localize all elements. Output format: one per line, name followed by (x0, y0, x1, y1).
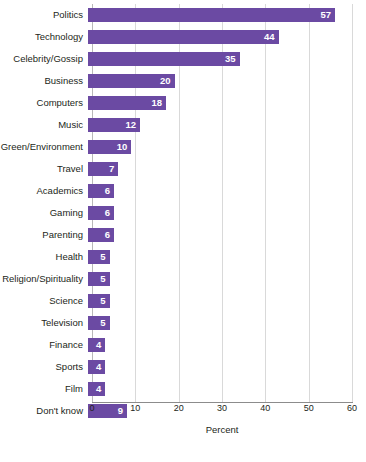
chart-row: Health5 (0, 246, 366, 268)
chart-row: Film4 (0, 378, 366, 400)
bar-chart: Politics57Technology44Celebrity/Gossip35… (0, 0, 366, 462)
bar-cell: 5 (88, 312, 348, 334)
bar-value-label: 20 (160, 76, 175, 86)
chart-row: Academics6 (0, 180, 366, 202)
bar-cell: 35 (88, 48, 348, 70)
bar-value-label: 4 (96, 340, 105, 350)
bar[interactable]: 10 (88, 140, 131, 154)
bar-cell: 4 (88, 334, 348, 356)
bar[interactable]: 4 (88, 382, 105, 396)
x-tick-label: 20 (174, 404, 184, 413)
bar-value-label: 18 (151, 98, 166, 108)
x-axis-ticks: 0102030405060 (92, 404, 352, 420)
bar-cell: 7 (88, 158, 348, 180)
bar-value-label: 12 (125, 120, 140, 130)
bar-value-label: 5 (100, 252, 109, 262)
chart-row: Technology44 (0, 26, 366, 48)
category-label: Academics (0, 186, 88, 196)
x-tick-label: 30 (217, 404, 227, 413)
bar[interactable]: 44 (88, 30, 279, 44)
chart-row: Science5 (0, 290, 366, 312)
bar[interactable]: 4 (88, 338, 105, 352)
bar-value-label: 44 (264, 32, 279, 42)
bar-value-label: 5 (100, 296, 109, 306)
category-label: Religion/Spirituality (0, 274, 88, 284)
bar-cell: 18 (88, 92, 348, 114)
bar-value-label: 6 (105, 208, 114, 218)
category-label: Business (0, 76, 88, 86)
x-tick-label: 10 (130, 404, 140, 413)
bar-value-label: 10 (117, 142, 132, 152)
bar[interactable]: 5 (88, 316, 110, 330)
bar[interactable]: 5 (88, 250, 110, 264)
chart-plot-area: Politics57Technology44Celebrity/Gossip35… (0, 4, 366, 414)
chart-row: Sports4 (0, 356, 366, 378)
bar-cell: 20 (88, 70, 348, 92)
bar-cell: 6 (88, 202, 348, 224)
bar-value-label: 4 (96, 362, 105, 372)
bar[interactable]: 6 (88, 206, 114, 220)
bar[interactable]: 18 (88, 96, 166, 110)
bar[interactable]: 35 (88, 52, 240, 66)
chart-row: Gaming6 (0, 202, 366, 224)
bar-cell: 4 (88, 356, 348, 378)
category-label: Music (0, 120, 88, 130)
x-tick-label: 50 (304, 404, 314, 413)
chart-row: Celebrity/Gossip35 (0, 48, 366, 70)
bar[interactable]: 5 (88, 294, 110, 308)
category-label: Green/Environment (0, 142, 88, 152)
category-label: Finance (0, 340, 88, 350)
category-label: Film (0, 384, 88, 394)
category-label: Computers (0, 98, 88, 108)
chart-row: Travel7 (0, 158, 366, 180)
bar-value-label: 6 (105, 186, 114, 196)
category-label: Gaming (0, 208, 88, 218)
x-tick-label: 60 (347, 404, 357, 413)
chart-row: Music12 (0, 114, 366, 136)
category-label: Technology (0, 32, 88, 42)
category-label: Celebrity/Gossip (0, 54, 88, 64)
bar-cell: 6 (88, 180, 348, 202)
chart-row: Green/Environment10 (0, 136, 366, 158)
chart-row: Religion/Spirituality5 (0, 268, 366, 290)
x-axis-title: Percent (92, 424, 352, 435)
bar[interactable]: 20 (88, 74, 175, 88)
category-label: Television (0, 318, 88, 328)
category-label: Health (0, 252, 88, 262)
category-label: Science (0, 296, 88, 306)
bar[interactable]: 4 (88, 360, 105, 374)
bar-cell: 12 (88, 114, 348, 136)
bar-cell: 10 (88, 136, 348, 158)
chart-row: Computers18 (0, 92, 366, 114)
bar-cell: 57 (88, 4, 348, 26)
bar[interactable]: 6 (88, 184, 114, 198)
category-label: Don't know (0, 406, 88, 416)
bar[interactable]: 12 (88, 118, 140, 132)
category-label: Politics (0, 10, 88, 20)
bar-cell: 4 (88, 378, 348, 400)
bar-value-label: 5 (100, 318, 109, 328)
chart-row: Television5 (0, 312, 366, 334)
chart-row: Business20 (0, 70, 366, 92)
x-tick-label: 40 (260, 404, 270, 413)
bar-value-label: 4 (96, 384, 105, 394)
bar[interactable]: 5 (88, 272, 110, 286)
bar-value-label: 57 (320, 10, 335, 20)
bar[interactable]: 7 (88, 162, 118, 176)
chart-row: Politics57 (0, 4, 366, 26)
bar-cell: 5 (88, 290, 348, 312)
chart-row: Finance4 (0, 334, 366, 356)
category-label: Travel (0, 164, 88, 174)
bar-cell: 5 (88, 268, 348, 290)
chart-row: Parenting6 (0, 224, 366, 246)
bar-cell: 5 (88, 246, 348, 268)
bar-value-label: 35 (225, 54, 240, 64)
bar-value-label: 6 (105, 230, 114, 240)
bar[interactable]: 6 (88, 228, 114, 242)
bar[interactable]: 57 (88, 8, 335, 22)
bar-value-label: 7 (109, 164, 118, 174)
bar-cell: 6 (88, 224, 348, 246)
x-tick-label: 0 (89, 404, 94, 413)
category-label: Parenting (0, 230, 88, 240)
bar-cell: 44 (88, 26, 348, 48)
